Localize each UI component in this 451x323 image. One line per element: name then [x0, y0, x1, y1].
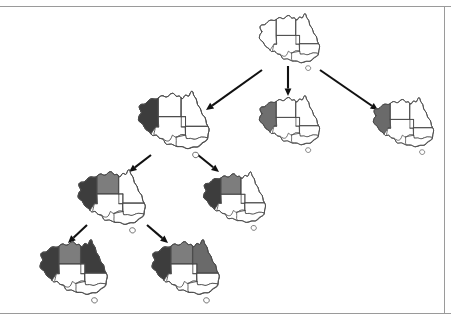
tree-node[interactable]: [152, 240, 219, 303]
tree-edge: [68, 225, 87, 243]
tree-edge: [129, 155, 151, 172]
region-t: [306, 66, 311, 71]
edge-line: [147, 225, 162, 238]
region-t: [251, 226, 256, 231]
edge-line: [212, 70, 262, 106]
region-nt: [158, 93, 181, 116]
region-nt: [59, 242, 81, 264]
region-t: [306, 148, 311, 153]
figure-container: [0, 0, 451, 323]
tree-nodes: [40, 14, 434, 303]
edge-line: [73, 225, 87, 238]
tree-edge: [198, 155, 219, 172]
map-coloring-search-tree: [0, 0, 451, 323]
region-nt: [276, 16, 296, 36]
region-nt: [221, 174, 241, 195]
region-nt: [97, 172, 119, 194]
region-nt: [276, 98, 296, 118]
region-t: [130, 228, 136, 233]
tree-edge: [285, 66, 292, 96]
edge-line: [135, 155, 151, 167]
region-nt: [171, 242, 193, 264]
tree-node[interactable]: [373, 98, 433, 155]
tree-edge: [147, 225, 168, 243]
region-nt: [390, 100, 410, 120]
tree-node[interactable]: [40, 240, 107, 303]
tree-node[interactable]: [259, 96, 319, 153]
tree-node[interactable]: [78, 170, 145, 233]
edge-arrowhead: [285, 89, 292, 97]
region-t: [193, 152, 199, 157]
edge-line: [198, 155, 213, 167]
tree-edge: [320, 70, 378, 110]
tree-edge: [206, 70, 262, 110]
tree-node[interactable]: [138, 91, 209, 157]
region-t: [92, 298, 98, 303]
tree-node[interactable]: [259, 14, 319, 71]
region-t: [420, 150, 425, 155]
region-t: [204, 298, 210, 303]
edge-line: [320, 70, 372, 106]
tree-node[interactable]: [204, 172, 266, 230]
